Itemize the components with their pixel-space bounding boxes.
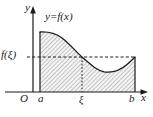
- shaded-area-under-curve: [38, 28, 138, 94]
- tick-label-xi: ξ: [79, 95, 83, 105]
- figure-container: y x O a ξ b y=f(x) f(ξ): [0, 0, 153, 117]
- tick-label-a: a: [38, 93, 44, 104]
- y-axis-label: y: [25, 2, 30, 13]
- x-axis-label: x: [141, 92, 146, 103]
- y-axis: [30, 6, 36, 92]
- curve-equation-label: y=f(x): [45, 11, 73, 22]
- origin-label: O: [20, 93, 28, 104]
- tick-label-b: b: [129, 93, 135, 104]
- f-of-xi-label: f(ξ): [1, 49, 16, 60]
